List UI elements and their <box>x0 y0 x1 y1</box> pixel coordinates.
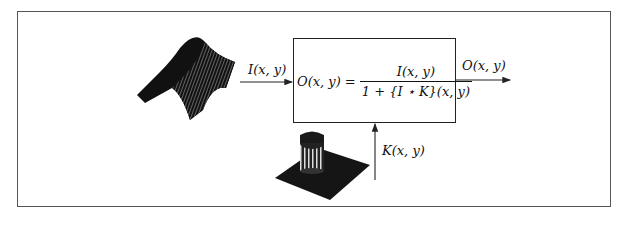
kernel-label: K(x, y) <box>382 143 425 158</box>
input-surface-plot <box>137 37 235 120</box>
equation-denominator: 1 + {I ⋆ K}(x, y) <box>360 81 472 99</box>
equation-numerator: I(x, y) <box>395 64 437 81</box>
equation-lhs: O(x, y) = <box>297 74 356 89</box>
kernel-surface-plot <box>275 132 370 201</box>
input-label: I(x, y) <box>248 62 286 77</box>
equation-fraction: I(x, y) 1 + {I ⋆ K}(x, y) <box>360 64 472 99</box>
equation: O(x, y) = I(x, y) 1 + {I ⋆ K}(x, y) <box>297 64 472 99</box>
